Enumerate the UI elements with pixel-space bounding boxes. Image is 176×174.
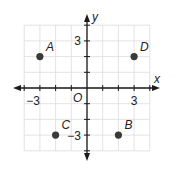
x-axis-left-arrow-icon — [13, 85, 21, 91]
point-b — [115, 132, 122, 139]
points: ABCD — [36, 40, 149, 139]
y-axis-up-arrow-icon — [84, 14, 90, 22]
y-axis-label: y — [91, 10, 99, 24]
coordinate-plane: x y O −3 3 3 −3 ABCD — [0, 0, 176, 174]
point-label-a: A — [45, 40, 54, 54]
x-tick-label-neg3: −3 — [26, 94, 40, 108]
point-c — [52, 132, 59, 139]
point-label-d: D — [140, 40, 149, 54]
point-label-c: C — [62, 118, 71, 132]
axes — [13, 14, 160, 161]
point-label-b: B — [124, 118, 132, 132]
x-axis-label: x — [153, 72, 161, 86]
x-tick-label-3: 3 — [131, 94, 138, 108]
point-a — [36, 53, 43, 60]
y-axis-down-arrow-icon — [84, 153, 90, 161]
y-tick-label-3: 3 — [74, 34, 81, 48]
point-d — [131, 53, 138, 60]
origin-label: O — [73, 91, 82, 105]
